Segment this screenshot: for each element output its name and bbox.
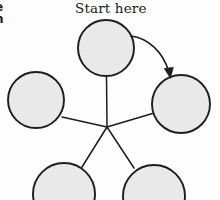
flow-arrow-curve	[131, 36, 169, 71]
spoke-group	[62, 77, 153, 169]
start-here-label: Start here	[75, 0, 147, 16]
spoke-hub-to-bottom-left	[82, 127, 107, 167]
spoke-hub-to-top	[107, 77, 108, 128]
spoke-hub-to-right	[107, 114, 153, 128]
margin-text-fragment-bottom: n	[0, 12, 4, 26]
node-circle-left	[8, 72, 64, 128]
radial-diagram: Start here e n	[0, 0, 220, 200]
spoke-hub-to-left	[62, 117, 107, 127]
node-circle-bottom-right	[123, 165, 185, 200]
flow-arrow	[131, 36, 173, 79]
node-circle-bottom-left	[33, 163, 95, 200]
node-group	[8, 20, 210, 200]
spoke-hub-to-bottom-right	[107, 127, 134, 168]
node-circle-top	[78, 20, 134, 76]
diagram-canvas	[0, 0, 220, 200]
node-circle-right	[152, 75, 210, 133]
